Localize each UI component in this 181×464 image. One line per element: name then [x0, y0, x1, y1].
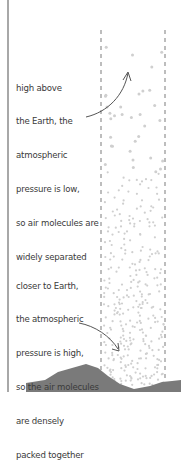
high-altitude-annotation: high above the Earth, the atmospheric pr…	[16, 60, 99, 275]
annotation-line: pressure is high,	[16, 348, 99, 359]
annotation-line: so air molecules are	[16, 218, 99, 229]
low-altitude-annotation: closer to Earth, the atmospheric pressur…	[16, 258, 99, 464]
annotation-line: are densely	[16, 416, 99, 427]
annotation-line: pressure is low,	[16, 184, 99, 195]
annotation-line: atmospheric	[16, 150, 99, 161]
annotation-line: high above	[16, 83, 99, 94]
annotation-line: the atmospheric	[16, 314, 99, 325]
annotation-line: the Earth, the	[16, 116, 99, 127]
annotation-line: so the air molecules	[16, 382, 99, 393]
air-molecules	[103, 46, 165, 387]
annotation-line: packed together	[16, 450, 99, 461]
annotation-line: closer to Earth,	[16, 281, 99, 292]
